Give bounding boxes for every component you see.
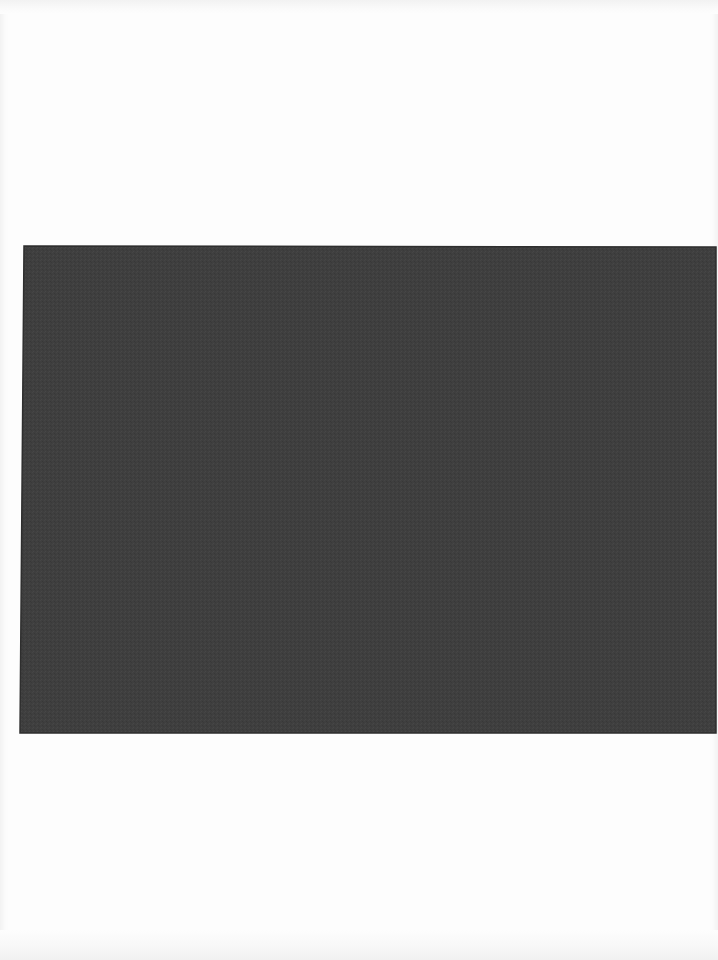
plate-shape (20, 246, 716, 733)
scanned-page (0, 0, 718, 960)
dark-plate-image (0, 0, 718, 960)
scan-bottom-edge-shadow (0, 930, 718, 960)
